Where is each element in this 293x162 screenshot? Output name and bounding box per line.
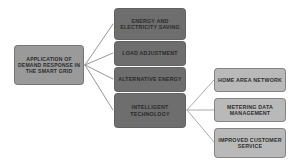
node-metering-data-management[interactable]: METERING DATA MANAGEMENT — [214, 98, 286, 122]
node-load-adjustment[interactable]: LOAD ADJUSTMENT — [114, 41, 186, 66]
node-intelligent-technology[interactable]: INTELLIGENT TECHNOLOGY — [114, 93, 186, 128]
node-alternative-energy[interactable]: ALTERNATIVE ENERGY — [114, 67, 186, 92]
node-label-alternative-energy: ALTERNATIVE ENERGY — [116, 76, 184, 82]
connector-intelligent-to-home-area-network — [187, 80, 214, 110]
connector-root-to-intelligent-technology — [85, 65, 113, 110]
connector-root-to-load-adjustment — [85, 53, 113, 65]
node-energy-and-electricity-saving[interactable]: ENERGY AND ELECTRICITY SAVING — [114, 8, 186, 40]
node-application-of-demand-response[interactable]: APPLICATION OF DEMAND RESPONSE IN THE SM… — [14, 45, 84, 85]
connector-root-to-alternative-energy — [85, 65, 113, 79]
diagram-canvas: APPLICATION OF DEMAND RESPONSE IN THE SM… — [0, 0, 293, 162]
node-label-home-area-network: HOME AREA NETWORK — [216, 77, 284, 83]
node-label-intelligent-technology: INTELLIGENT TECHNOLOGY — [115, 104, 185, 117]
node-label-load-adjustment: LOAD ADJUSTMENT — [120, 50, 179, 56]
connector-root-to-energy-saving — [85, 24, 113, 65]
connector-intelligent-to-improved-customer — [187, 110, 214, 142]
node-label-root: APPLICATION OF DEMAND RESPONSE IN THE SM… — [15, 56, 83, 74]
node-home-area-network[interactable]: HOME AREA NETWORK — [214, 68, 286, 92]
node-improved-customer-service[interactable]: IMPROVED CUSTOMER SERVICE — [214, 128, 286, 158]
node-label-improved-customer-service: IMPROVED CUSTOMER SERVICE — [215, 137, 285, 150]
node-label-energy-saving: ENERGY AND ELECTRICITY SAVING — [115, 18, 185, 31]
node-label-metering-data-management: METERING DATA MANAGEMENT — [215, 104, 285, 117]
